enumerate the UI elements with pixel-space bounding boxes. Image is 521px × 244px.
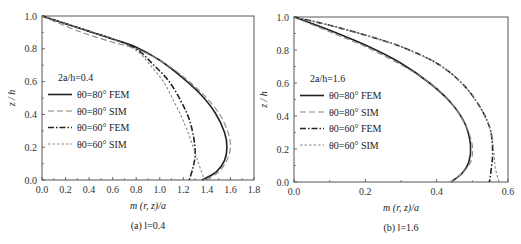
y-tick-label: 1.0	[25, 11, 38, 22]
figure: 0.00.20.40.60.81.01.21.41.61.80.00.20.40…	[0, 0, 521, 244]
series-line	[294, 17, 473, 182]
x-tick-label: 0.4	[430, 186, 443, 197]
series-line	[294, 17, 471, 182]
legend-label: θ0=60° FEM	[329, 123, 382, 134]
series-line	[294, 17, 493, 182]
legend-label: θ0=60° SIM	[77, 139, 127, 150]
y-tick-label: 1.0	[277, 12, 290, 23]
x-tick-label: 0.4	[83, 184, 96, 195]
x-tick-label: 0.6	[502, 186, 515, 197]
y-tick-label: 0.2	[277, 144, 290, 155]
x-tick-label: 0.0	[288, 186, 301, 197]
y-axis-label: z / h	[258, 91, 269, 109]
x-tick-label: 1.4	[201, 184, 214, 195]
x-tick-label: 1.6	[224, 184, 237, 195]
y-tick-label: 0.8	[277, 45, 290, 56]
annotation-label: 2a/h=1.6	[310, 73, 345, 84]
chart-panel-b: 0.00.20.40.60.00.20.40.60.81.0m (r, z)/a…	[258, 12, 514, 235]
x-tick-label: 0.8	[130, 184, 143, 195]
subfigure-caption: (a) l=0.4	[131, 220, 166, 232]
legend-label: θ0=80° FEM	[329, 90, 382, 101]
x-tick-label: 0.2	[59, 184, 72, 195]
legend-label: θ0=60° SIM	[329, 140, 379, 151]
series-line	[294, 17, 499, 182]
x-tick-label: 1.2	[177, 184, 190, 195]
x-tick-label: 0.6	[106, 184, 119, 195]
x-tick-label: 1.0	[154, 184, 167, 195]
y-tick-label: 0.0	[25, 175, 38, 186]
plot-frame	[42, 16, 254, 180]
x-tick-label: 0.2	[359, 186, 372, 197]
y-tick-label: 0.4	[277, 111, 290, 122]
x-axis-label: m (r, z)/a	[383, 202, 419, 214]
y-tick-label: 0.0	[277, 177, 290, 188]
x-tick-label: 0.0	[36, 184, 49, 195]
y-tick-label: 0.2	[25, 142, 38, 153]
x-tick-label: 1.8	[248, 184, 261, 195]
annotation-label: 2a/h=0.4	[58, 72, 93, 83]
series-line	[42, 16, 230, 180]
y-tick-label: 0.6	[25, 76, 38, 87]
legend-label: θ0=60° FEM	[77, 122, 130, 133]
y-axis-label: z / h	[6, 90, 17, 108]
x-axis-label: m (r, z)/a	[130, 200, 166, 212]
y-tick-label: 0.4	[25, 109, 38, 120]
series-line	[42, 16, 227, 180]
chart-panel-a: 0.00.20.40.60.81.01.21.41.61.80.00.20.40…	[6, 11, 260, 233]
y-tick-label: 0.6	[277, 78, 290, 89]
legend-label: θ0=80° SIM	[77, 106, 127, 117]
legend-label: θ0=80° SIM	[329, 107, 379, 118]
legend-label: θ0=80° FEM	[77, 89, 130, 100]
subfigure-caption: (b) l=1.6	[383, 222, 418, 234]
y-tick-label: 0.8	[25, 43, 38, 54]
